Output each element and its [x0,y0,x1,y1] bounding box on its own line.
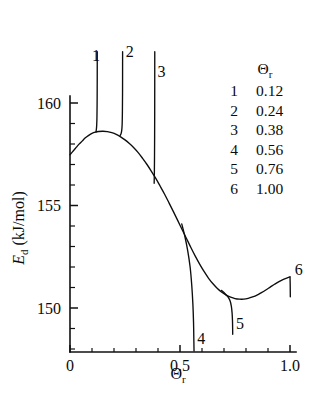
legend-row-id: 2 [230,102,238,119]
x-axis-major-ticks [70,345,290,352]
legend-row-value: 0.56 [256,141,283,158]
legend-row-id: 3 [230,121,238,138]
chart-plot: 00.51.0 150155160 123456 Θr Ed (kJ/mol) … [0,0,324,405]
branch-label-3: 3 [158,63,166,80]
legend-header: Θr [258,60,273,80]
y-tick-label: 155 [37,197,61,214]
legend-row-value: 0.12 [256,82,283,99]
y-axis-tick-labels: 150155160 [37,95,61,317]
curve-branch-4 [182,224,194,351]
branch-label-5: 5 [236,315,244,332]
legend-row-id: 1 [230,82,238,99]
x-axis-tick-labels: 00.51.0 [66,357,300,374]
branch-label-4: 4 [197,330,205,347]
curve-branch-3 [154,52,155,184]
x-tick-label: 1.0 [280,357,300,374]
branch-label-6: 6 [295,261,303,278]
figure-container: 00.51.0 150155160 123456 Θr Ed (kJ/mol) … [0,0,324,405]
y-axis-title: Ed (kJ/mol) [10,191,30,266]
curve-branch-2 [120,52,122,136]
y-tick-label: 150 [37,300,61,317]
legend-row-id: 4 [230,141,238,158]
y-axis-major-ticks [70,103,78,308]
legend-row-value: 0.38 [256,121,283,138]
legend-row-value: 1.00 [256,180,283,197]
legend-row-value: 0.24 [256,102,283,119]
legend: Θr10.1220.2430.3840.5650.7661.00 [230,60,283,197]
legend-row-value: 0.76 [256,160,283,177]
legend-row-id: 5 [230,160,238,177]
branch-label-1: 1 [92,47,100,64]
legend-row-id: 6 [230,180,238,197]
y-axis-title-text: Ed (kJ/mol) [10,191,30,266]
y-tick-label: 160 [37,95,61,112]
x-tick-label: 0 [66,357,74,374]
branch-label-2: 2 [126,43,134,60]
